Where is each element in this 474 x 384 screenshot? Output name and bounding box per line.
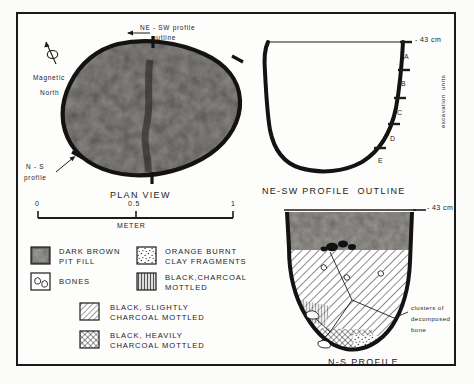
ns-annotation-line2: profile <box>24 174 47 182</box>
archaeological-figure: NE - SW profile outline Magnetic North N… <box>0 0 474 384</box>
ne-sw-annotation-line1: NE - SW profile <box>140 24 195 32</box>
legend-label-charcoal-mottled-line2: MOTTLED <box>165 283 208 293</box>
legend-label-heavily-mottled-line1: BLACK, HEAVILY <box>110 331 183 341</box>
magnetic-north-label-line1: Magnetic <box>33 74 65 82</box>
plan-view-title: PLAN VIEW <box>110 190 171 201</box>
scale-tick-1: 1 <box>231 200 236 209</box>
legend-label-dark-brown-line1: DARK BROWN <box>59 247 120 257</box>
ns-depth-label: - 43 cm <box>427 204 453 213</box>
scale-unit-label: METER <box>117 222 146 231</box>
legend-label-heavily-mottled-line2: CHARCOAL MOTTLED <box>110 341 205 351</box>
scale-tick-half: 0.5 <box>128 200 140 209</box>
magnetic-north-label-line2: North <box>40 89 59 97</box>
excavation-unit-d: D <box>390 135 395 144</box>
excavation-unit-e: E <box>378 157 383 166</box>
ns-annotation-line1: N - S <box>26 163 44 171</box>
ns-cluster-annotation-line3: bone <box>411 327 426 335</box>
legend-label-orange-clay-line2: CLAY FRAGMENTS <box>165 257 247 267</box>
excavation-unit-a: A <box>404 53 409 62</box>
ne-sw-profile-title: NE-SW PROFILE OUTLINE <box>262 186 406 197</box>
excavation-units-axis-label: excavation units <box>440 75 448 128</box>
scale-tick-0: 0 <box>35 200 40 209</box>
legend-label-dark-brown-line2: PIT FILL <box>59 257 95 267</box>
legend-label-slightly-mottled-line1: BLACK, SLIGHTLY <box>110 303 189 313</box>
ns-profile-title: N-S PROFILE <box>328 357 399 368</box>
legend-label-slightly-mottled-line2: CHARCOAL MOTTLED <box>110 313 205 323</box>
ne-sw-annotation-line2: outline <box>152 34 176 42</box>
legend-label-orange-clay-line1: ORANGE BURNT <box>165 247 237 257</box>
ne-sw-depth-label: - 43 cm <box>415 36 441 45</box>
ns-cluster-annotation-line2: decomposed <box>411 316 450 324</box>
legend-label-bones: BONES <box>59 277 90 287</box>
ns-cluster-annotation-line1: clusters of <box>411 305 444 313</box>
excavation-unit-b: B <box>401 80 406 89</box>
legend-label-charcoal-mottled-line1: BLACK,CHARCOAL <box>165 273 247 283</box>
excavation-unit-c: C <box>397 109 402 118</box>
